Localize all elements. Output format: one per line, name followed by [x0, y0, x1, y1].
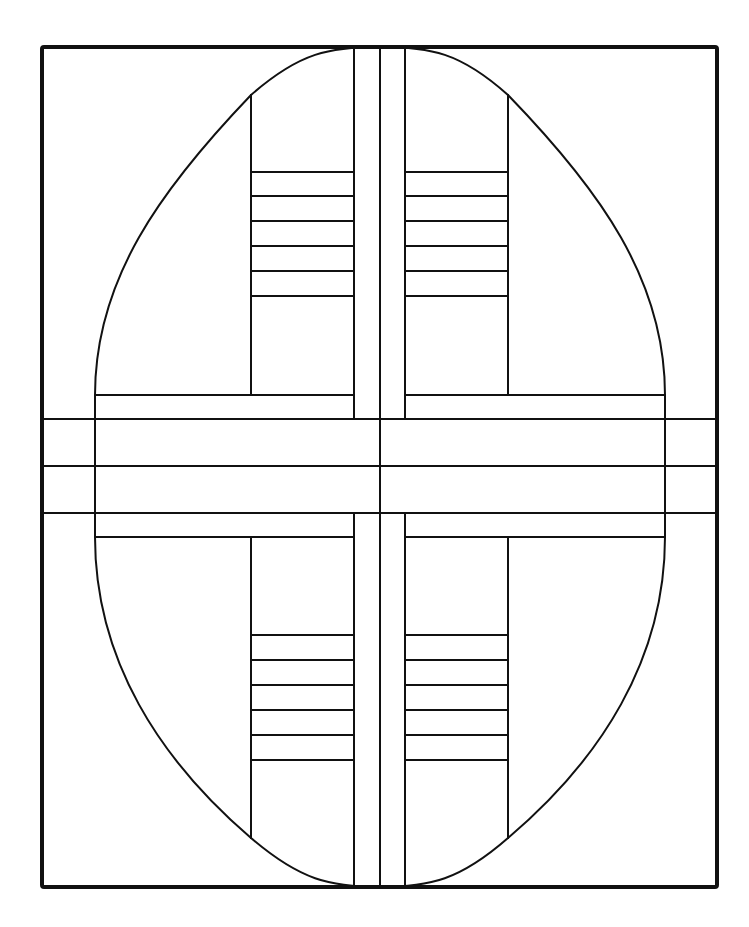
coloring-page-artwork	[0, 0, 749, 927]
